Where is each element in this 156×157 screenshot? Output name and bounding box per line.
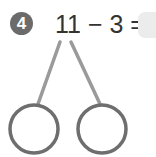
- bond-line-right: [71, 42, 100, 104]
- bond-circle-right[interactable]: [78, 105, 126, 153]
- number-bond: [0, 0, 156, 157]
- bond-circle-left[interactable]: [10, 105, 58, 153]
- bond-line-left: [38, 42, 60, 104]
